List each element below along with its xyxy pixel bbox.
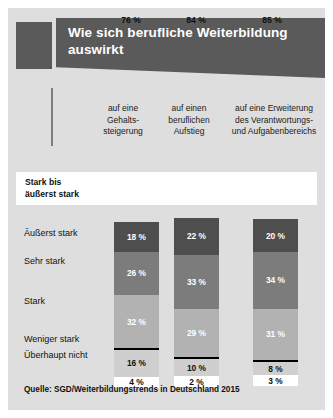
bar-column-1: 18 %26 %32 %16 %4 %	[114, 222, 159, 388]
summary-label-line2: äußerst stark	[25, 189, 79, 201]
category-label-2: Stark	[24, 296, 45, 306]
column-header-2-line3: Aufstieg	[158, 126, 220, 138]
column-header-2: auf einen beruflichen Aufstieg	[158, 103, 220, 138]
infographic-chart: Wie sich berufliche Weiterbildung auswir…	[0, 0, 333, 418]
bar-segment: 29 %	[174, 309, 219, 357]
bar-segment: 18 %	[114, 222, 159, 252]
category-label-3: Weniger stark	[24, 334, 79, 344]
bar-segment: 32 %	[114, 295, 159, 348]
summary-value-3: 85 %	[246, 15, 298, 25]
bar-segment: 20 %	[253, 219, 298, 252]
bar-column-3: 20 %34 %31 %8 %3 %	[253, 219, 298, 386]
column-header-1-line3: steigerung	[92, 126, 154, 138]
bar-column-2: 22 %33 %29 %10 %2 %	[174, 218, 219, 387]
column-header-1-line2: Gehalts-	[92, 115, 154, 127]
bar-segment: 22 %	[174, 218, 219, 255]
bar-segment: 26 %	[114, 252, 159, 295]
header-divider-rule	[51, 88, 53, 146]
bar-segment: 31 %	[253, 309, 298, 360]
summary-label-line1: Stark bis	[25, 177, 79, 189]
summary-band: Stark bis äußerst stark	[16, 172, 317, 205]
column-header-1-line1: auf eine	[92, 103, 154, 115]
column-header-1: auf eine Gehalts- steigerung	[92, 103, 154, 138]
bar-segment: 8 %	[253, 362, 298, 375]
summary-value-1: 76 %	[105, 15, 157, 25]
bar-segment: 33 %	[174, 255, 219, 310]
category-label-0: Äußerst stark	[24, 228, 78, 238]
category-label-1: Sehr stark	[24, 256, 65, 266]
source-note: Quelle: SGD/Weiterbildungstrends in Deut…	[24, 385, 240, 394]
summary-label: Stark bis äußerst stark	[25, 177, 79, 200]
bar-segment: 16 %	[114, 350, 159, 377]
category-label-4: Überhaupt nicht	[24, 350, 88, 360]
column-header-3-line1: auf eine Erweiterung	[224, 103, 324, 115]
column-header-2-line1: auf einen	[158, 103, 220, 115]
bar-segment: 34 %	[253, 252, 298, 308]
summary-value-2: 84 %	[170, 15, 222, 25]
column-header-3-line2: des Verantwortungs-	[224, 115, 324, 127]
bar-segment: 10 %	[174, 359, 219, 376]
header-accent-block	[16, 22, 52, 69]
bar-segment: 3 %	[253, 375, 298, 386]
column-header-3-line3: und Aufgabenbereichs	[224, 126, 324, 138]
column-header-2-line2: beruflichen	[158, 115, 220, 127]
page-title: Wie sich berufliche Weiterbildung auswir…	[68, 24, 318, 58]
column-header-3: auf eine Erweiterung des Verantwortungs-…	[224, 103, 324, 138]
